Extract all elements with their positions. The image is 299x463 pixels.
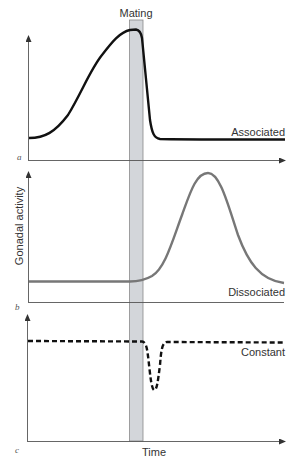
mating-gonadal-diagram: Mating a Associated b Dissociated Gonada…: [0, 0, 299, 463]
panel-b: b Dissociated Gonadal activity: [13, 172, 285, 312]
associated-label: Associated: [231, 126, 285, 138]
x-axis-label: Time: [142, 446, 166, 458]
dissociated-label: Dissociated: [228, 286, 285, 298]
dissociated-curve: [29, 173, 284, 283]
panel-a: a Associated: [17, 30, 285, 163]
mating-label: Mating: [119, 7, 152, 19]
y-axis-label: Gonadal activity: [13, 186, 25, 265]
panel-c-letter: c: [15, 445, 19, 455]
constant-label: Constant: [241, 346, 285, 358]
panel-a-letter: a: [17, 152, 22, 162]
panel-b-letter: b: [15, 302, 20, 312]
panel-c: c Constant Time: [15, 315, 285, 458]
mating-bar: [130, 20, 144, 441]
associated-curve: [29, 30, 285, 140]
